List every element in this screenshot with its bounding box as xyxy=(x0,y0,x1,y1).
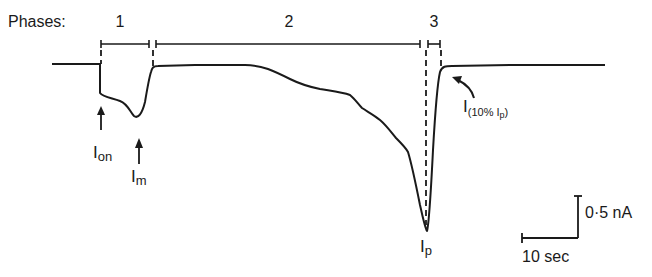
phase-2-bracket xyxy=(156,40,420,48)
phase-1-bracket xyxy=(101,40,149,48)
current-trace-diagram: Phases: 1 2 3 Ion xyxy=(0,0,652,277)
label-i-10-percent-ip: I(10% Ip) xyxy=(463,97,508,120)
label-i-p: Ip xyxy=(420,237,432,258)
arrow-i-on xyxy=(97,106,105,130)
current-trace xyxy=(52,64,605,231)
scale-current-label: 0·5 nA xyxy=(585,204,632,221)
phases-label: Phases: xyxy=(8,13,66,30)
phase-3-bracket xyxy=(428,40,440,48)
label-i-on: Ion xyxy=(93,143,112,164)
scale-time-label: 10 sec xyxy=(522,248,569,265)
phase-brackets xyxy=(101,40,440,48)
scale-bar xyxy=(522,196,582,243)
arrow-i-m xyxy=(135,138,143,164)
label-i-m: Im xyxy=(131,167,147,188)
arrow-i-10-percent xyxy=(452,76,474,98)
phase-1-label: 1 xyxy=(116,13,125,30)
phase-3-label: 3 xyxy=(430,13,439,30)
phase-boundaries xyxy=(101,50,441,225)
phase-2-label: 2 xyxy=(285,13,294,30)
